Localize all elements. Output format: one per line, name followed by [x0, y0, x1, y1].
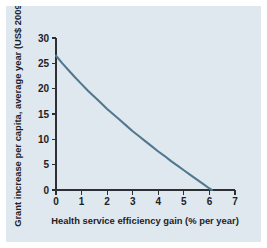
- x-tick-label-4: 4: [156, 196, 162, 207]
- x-axis-tick-labels: 0 1 2 3 4 5 6 7: [53, 196, 238, 207]
- y-tick-label-0: 0: [43, 185, 49, 196]
- x-tick-label-1: 1: [79, 196, 85, 207]
- x-tick-label-7: 7: [232, 196, 238, 207]
- y-axis-tick-labels: 30 25 20 15 10 5 0: [38, 33, 50, 196]
- x-tick-label-5: 5: [181, 196, 187, 207]
- figure-panel: 30 25 20 15 10 5 0 Grant increase per ca…: [6, 6, 261, 242]
- y-tick-label-30: 30: [38, 33, 50, 44]
- chart-canvas: 30 25 20 15 10 5 0 Grant increase per ca…: [6, 6, 261, 242]
- x-tick-label-0: 0: [53, 196, 59, 207]
- x-tick-label-2: 2: [104, 196, 110, 207]
- y-tick-label-10: 10: [38, 134, 50, 145]
- y-axis-title: Grant increase per capita, average year …: [12, 6, 23, 227]
- data-series-line: [56, 56, 212, 190]
- x-axis-title: Health service efficiency gain (% per ye…: [51, 215, 239, 226]
- y-tick-label-15: 15: [38, 109, 50, 120]
- y-tick-label-25: 25: [38, 58, 50, 69]
- y-axis: 30 25 20 15 10 5 0 Grant increase per ca…: [12, 6, 56, 227]
- x-axis: 0 1 2 3 4 5 6 7 Health service efficienc…: [51, 190, 239, 226]
- y-tick-label-5: 5: [43, 159, 49, 170]
- x-axis-ticks: [56, 190, 235, 195]
- y-axis-ticks: [52, 38, 56, 190]
- x-tick-label-3: 3: [130, 196, 136, 207]
- x-tick-label-6: 6: [207, 196, 213, 207]
- y-tick-label-20: 20: [38, 83, 50, 94]
